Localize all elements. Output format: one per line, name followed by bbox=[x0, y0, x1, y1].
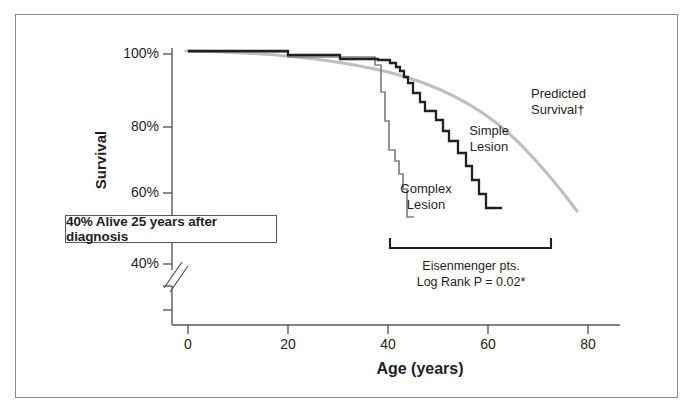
ytick-label-40: 40% bbox=[113, 255, 159, 271]
predicted-survival-label-line2: Survival† bbox=[531, 102, 584, 117]
bracket-caption-line2: Log Rank P = 0.02* bbox=[417, 275, 526, 289]
complex-lesion-label-line1: Complex bbox=[400, 181, 451, 196]
bracket-caption-line1: Eisenmenger pts. bbox=[422, 259, 519, 273]
predicted-survival-label-line1: Predicted bbox=[531, 86, 586, 101]
callout-box-text: 40% Alive 25 years after diagnosis bbox=[66, 214, 276, 244]
axis-break-icon bbox=[164, 262, 188, 292]
ytick-label-100: 100% bbox=[113, 45, 159, 61]
complex-lesion-curve bbox=[188, 52, 414, 217]
simple-lesion-label-line2: Lesion bbox=[470, 139, 508, 154]
y-axis bbox=[163, 48, 188, 325]
ytick-label-80: 80% bbox=[113, 118, 159, 134]
figure-root: 100% 80% 60% 40% 0 20 40 60 80 Survival … bbox=[0, 0, 694, 414]
complex-lesion-label-line2: Lesion bbox=[407, 197, 445, 212]
ytick-label-60: 60% bbox=[113, 184, 159, 200]
complex-lesion-label: Complex Lesion bbox=[386, 181, 466, 213]
xtick-label-0: 0 bbox=[168, 336, 208, 352]
eisenmenger-bracket-caption: Eisenmenger pts. Log Rank P = 0.02* bbox=[390, 258, 552, 291]
x-axis bbox=[172, 325, 620, 334]
predicted-survival-label: Predicted Survival† bbox=[531, 86, 623, 118]
xtick-label-80: 80 bbox=[568, 336, 608, 352]
x-axis-title: Age (years) bbox=[330, 360, 510, 378]
simple-lesion-label-line1: Simple bbox=[469, 123, 509, 138]
callout-box: 40% Alive 25 years after diagnosis bbox=[65, 215, 277, 243]
xtick-label-20: 20 bbox=[268, 336, 308, 352]
xtick-label-40: 40 bbox=[368, 336, 408, 352]
eisenmenger-bracket bbox=[390, 238, 551, 248]
simple-lesion-label: Simple Lesion bbox=[452, 123, 526, 155]
y-axis-title: Survival bbox=[40, 149, 160, 171]
xtick-label-60: 60 bbox=[468, 336, 508, 352]
